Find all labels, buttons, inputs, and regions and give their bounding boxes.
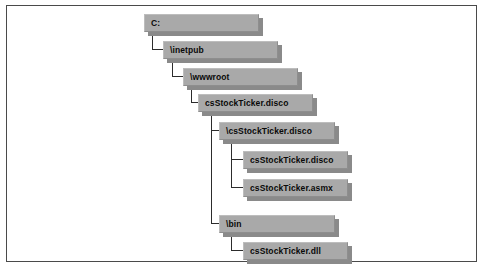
connector-drive-to-inetpub-vertical xyxy=(152,32,153,49)
tree-node-inetpub[interactable]: \inetpub xyxy=(163,41,278,59)
connector-wwwroot-to-folder-disco-vertical xyxy=(191,86,192,102)
tree-node-label: csStockTicker.disco xyxy=(244,155,333,165)
directory-tree-figure: C: \inetpub \wwwroot csStockTicker.disco… xyxy=(0,0,495,277)
tree-node-label: csStockTicker.dll xyxy=(244,246,321,256)
tree-node-label: csStockTicker.asmx xyxy=(244,183,333,193)
tree-node-wwwroot[interactable]: \wwwroot xyxy=(183,68,298,86)
tree-node-label: \bin xyxy=(220,219,242,229)
tree-node-folder-disco[interactable]: csStockTicker.disco xyxy=(198,94,313,112)
connector-folder-disco-trunk-vertical xyxy=(211,112,212,223)
connector-sub-disco-trunk-vertical xyxy=(231,140,232,187)
tree-node-bin[interactable]: \bin xyxy=(219,215,335,233)
tree-node-label: \wwwroot xyxy=(184,72,230,82)
connector-bin-to-file-dll-vertical xyxy=(231,233,232,250)
tree-node-drive[interactable]: C: xyxy=(144,14,259,32)
tree-node-label: csStockTicker.disco xyxy=(199,98,288,108)
directory-tree: C: \inetpub \wwwroot csStockTicker.disco… xyxy=(0,0,495,277)
tree-node-sub-disco[interactable]: \csStockTicker.disco xyxy=(219,122,335,140)
connector-inetpub-to-wwwroot-vertical xyxy=(172,59,173,76)
tree-node-label: \inetpub xyxy=(164,45,204,55)
tree-node-file-dll[interactable]: csStockTicker.dll xyxy=(243,242,348,260)
tree-node-file-asmx[interactable]: csStockTicker.asmx xyxy=(243,179,348,197)
tree-node-label: \csStockTicker.disco xyxy=(220,126,312,136)
tree-node-label: C: xyxy=(145,18,160,28)
tree-node-file-disco[interactable]: csStockTicker.disco xyxy=(243,151,348,169)
